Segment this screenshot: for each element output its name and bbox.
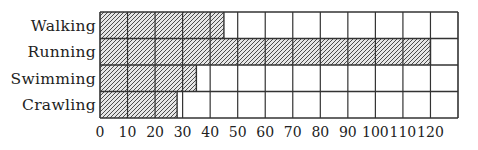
x-tick-label: 90 xyxy=(339,124,357,140)
bar-walking xyxy=(100,12,224,39)
x-tick-label: 30 xyxy=(174,124,192,140)
bar-swimming xyxy=(100,65,196,92)
bar-chart: WalkingRunningSwimmingCrawling 010203040… xyxy=(0,0,478,150)
x-tick-label: 100 xyxy=(362,124,389,140)
bar-crawling xyxy=(100,92,177,119)
x-tick-label: 50 xyxy=(229,124,247,140)
category-label-walking: Walking xyxy=(31,17,96,35)
x-tick-label: 70 xyxy=(284,124,302,140)
category-label-swimming: Swimming xyxy=(10,70,96,88)
x-tick-label: 120 xyxy=(417,124,444,140)
category-label-running: Running xyxy=(27,43,96,61)
x-axis-tick-labels: 0102030405060708090100110120 xyxy=(96,124,444,140)
x-tick-label: 60 xyxy=(256,124,274,140)
x-tick-label: 110 xyxy=(390,124,417,140)
x-tick-label: 80 xyxy=(311,124,329,140)
x-tick-label: 10 xyxy=(119,124,137,140)
x-tick-label: 40 xyxy=(201,124,219,140)
category-labels: WalkingRunningSwimmingCrawling xyxy=(10,17,96,115)
category-label-crawling: Crawling xyxy=(22,96,96,114)
x-tick-label: 20 xyxy=(146,124,164,140)
x-tick-label: 0 xyxy=(96,124,105,140)
